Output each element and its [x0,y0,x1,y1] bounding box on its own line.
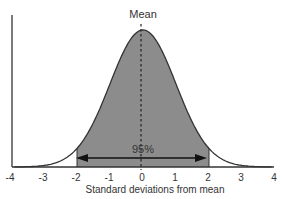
x-tick-label: -4 [6,172,15,183]
x-tick-label: -1 [105,172,114,183]
x-tick-label: 1 [172,172,178,183]
mean-label: Mean [129,8,157,20]
x-tick-label: 0 [139,172,145,183]
x-tick-label: -2 [72,172,81,183]
x-tick-label: 4 [271,172,277,183]
x-tick-labels: -4-3-2-101234 [6,172,278,183]
x-axis-label: Standard deviations from mean [86,184,225,195]
normal-distribution-chart: Mean 95% -4-3-2-101234 Standard deviatio… [0,0,284,199]
x-tick-label: 2 [205,172,211,183]
x-tick-label: -3 [39,172,48,183]
percent-label: 95% [132,143,154,155]
x-tick-label: 3 [238,172,244,183]
